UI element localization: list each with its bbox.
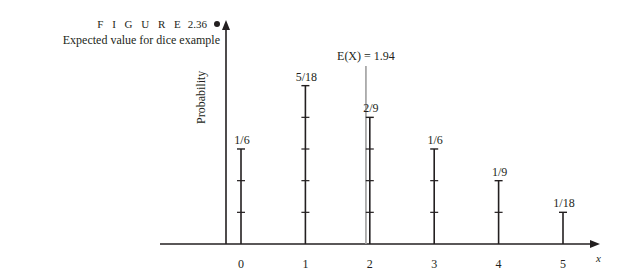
value-label: 5/18 [296,70,317,84]
expected-value-label: E(X) = 1.94 [337,49,395,63]
x-tick-label: 4 [496,257,502,271]
x-axis-arrow-icon [590,240,600,248]
x-tick-label: 1 [302,257,308,271]
x-axis-label: x [595,252,601,264]
value-label: 1/9 [492,165,507,179]
value-label: 2/9 [363,101,378,115]
stem-chart: xE(X) = 1.941/605/1812/921/631/941/185 [0,0,636,279]
x-tick-label: 3 [431,257,437,271]
value-label: 1/18 [553,196,574,210]
value-label: 1/6 [234,133,249,147]
y-axis-arrow-icon [222,20,230,30]
x-tick-label: 0 [238,257,244,271]
x-tick-label: 2 [367,257,373,271]
x-tick-label: 5 [560,257,566,271]
value-label: 1/6 [428,133,443,147]
